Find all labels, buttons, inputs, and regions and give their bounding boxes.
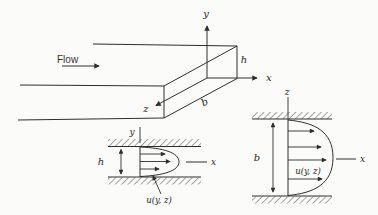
flow-label: Flow — [57, 54, 79, 65]
duct-outline — [18, 44, 237, 120]
end-x-axis-label: x — [360, 154, 365, 164]
side-top-wall-hatch — [108, 139, 201, 146]
duct-flow-diagram: Flow y x z h b y h x u(y, z) z — [0, 0, 378, 215]
end-bottom-wall-hatch — [252, 197, 332, 204]
duct-3d-view: Flow y x z h b — [18, 8, 272, 120]
y-axis-label: y — [202, 8, 209, 19]
side-height-label: h — [98, 156, 104, 167]
end-z-axis-label: z — [284, 87, 290, 97]
figure-canvas: Flow y x z h b y h x u(y, z) z — [0, 0, 378, 215]
side-view: y h x u(y, z) — [98, 127, 216, 205]
side-velocity-label: u(y, z) — [146, 195, 172, 205]
duct-width-label: b — [199, 96, 210, 109]
side-y-axis-label: y — [128, 127, 135, 137]
z-axis-label: z — [142, 103, 149, 114]
side-x-axis-label: x — [211, 157, 216, 167]
end-width-label: b — [254, 152, 260, 163]
end-velocity-label: u(y, z) — [295, 166, 321, 176]
end-top-wall-hatch — [252, 112, 332, 119]
x-axis-label: x — [266, 72, 272, 83]
end-view: z b u(y, z) x — [252, 87, 365, 204]
duct-height-label: h — [241, 54, 247, 65]
